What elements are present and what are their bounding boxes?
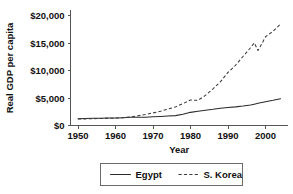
x-tick-label: 1960 (105, 130, 126, 141)
gdp-line-chart: $0$5,000$10,000$15,000$20,000 1950196019… (0, 0, 293, 194)
legend-label-egypt: Egypt (136, 169, 163, 180)
x-axis-title: Year (169, 144, 189, 155)
chart-container: $0$5,000$10,000$15,000$20,000 1950196019… (0, 0, 293, 194)
chart-legend: EgyptS. Korea (101, 164, 243, 186)
y-axis-title: Real GDP per capita (4, 22, 15, 113)
x-tick-label: 2000 (255, 130, 276, 141)
y-tick-label: $20,000 (30, 10, 64, 21)
y-axis-ticks: $0$5,000$10,000$15,000$20,000 (30, 10, 70, 131)
y-tick-label: $5,000 (35, 93, 64, 104)
legend-label-s-korea: S. Korea (204, 169, 243, 180)
y-tick-label: $0 (54, 120, 65, 131)
series-line-egypt (78, 99, 281, 119)
data-series-group (78, 24, 281, 119)
x-tick-label: 1980 (180, 130, 201, 141)
y-tick-label: $15,000 (30, 38, 64, 49)
x-tick-label: 1990 (217, 130, 238, 141)
y-tick-label: $10,000 (30, 65, 64, 76)
x-axis-ticks: 195019601970198019902000 (67, 126, 276, 142)
x-tick-label: 1950 (67, 130, 88, 141)
x-tick-label: 1970 (142, 130, 163, 141)
